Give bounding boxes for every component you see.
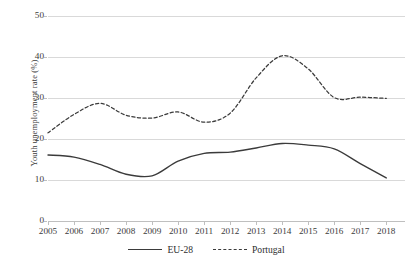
y-tick-label-20: 20	[0, 134, 44, 143]
x-tick-mark-2016	[334, 221, 335, 225]
x-tick-mark-2018	[386, 221, 387, 225]
y-tick-label-10: 10	[0, 175, 44, 184]
x-tick-label-2018: 2018	[369, 227, 403, 236]
x-tick-mark-2012	[230, 221, 231, 225]
y-tick-label-50: 50	[0, 11, 44, 20]
x-tick-mark-2005	[48, 221, 49, 225]
legend-label: Portugal	[252, 245, 285, 255]
y-tick-label-30: 30	[0, 93, 44, 102]
y-tick-mark-50	[44, 16, 47, 17]
youth-unemployment-line-chart: Youth unemployment rate (%) 01020304050 …	[0, 0, 413, 271]
series-line-eu-28	[48, 143, 386, 178]
x-tick-mark-2011	[204, 221, 205, 225]
legend-swatch-dashed-line-icon	[213, 249, 247, 250]
y-tick-mark-30	[44, 98, 47, 99]
x-tick-mark-2008	[126, 221, 127, 225]
gridline-0	[48, 221, 405, 222]
y-axis-ticks: 01020304050	[0, 16, 44, 221]
x-tick-mark-2006	[74, 221, 75, 225]
legend-label: EU-28	[167, 245, 193, 255]
plot-area	[48, 16, 405, 221]
series-lines	[48, 16, 405, 221]
y-tick-mark-0	[44, 221, 47, 222]
y-tick-mark-40	[44, 57, 47, 58]
y-tick-label-0: 0	[0, 216, 44, 225]
chart-legend: EU-28Portugal	[0, 245, 413, 255]
y-tick-mark-10	[44, 180, 47, 181]
x-tick-mark-2010	[178, 221, 179, 225]
x-tick-mark-2017	[360, 221, 361, 225]
x-tick-mark-2013	[256, 221, 257, 225]
legend-item-eu-28[interactable]: EU-28	[128, 245, 193, 255]
y-tick-mark-20	[44, 139, 47, 140]
x-tick-mark-2015	[308, 221, 309, 225]
x-tick-mark-2014	[282, 221, 283, 225]
x-tick-mark-2009	[152, 221, 153, 225]
x-tick-mark-2007	[100, 221, 101, 225]
legend-item-portugal[interactable]: Portugal	[213, 245, 285, 255]
series-line-portugal	[48, 56, 386, 133]
y-tick-label-40: 40	[0, 52, 44, 61]
legend-swatch-solid-line-icon	[128, 249, 162, 250]
